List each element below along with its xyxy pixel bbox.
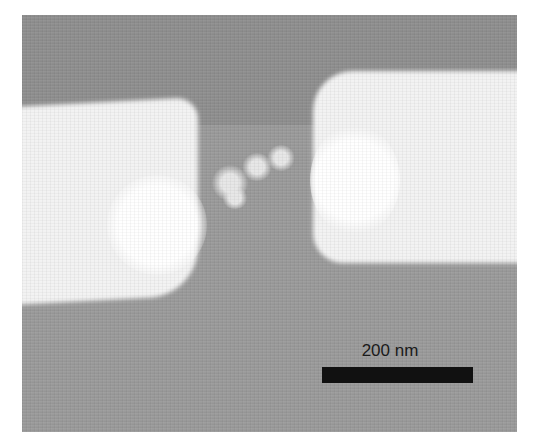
scale-bar-label: 200 nm [330, 341, 450, 361]
scale-bar [322, 367, 473, 383]
